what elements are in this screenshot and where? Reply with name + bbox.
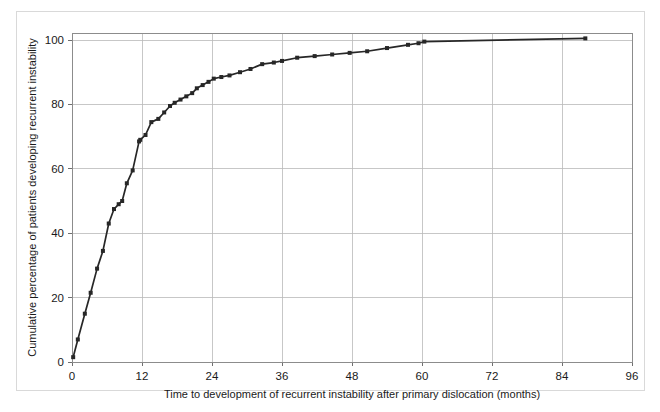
data-point-marker bbox=[406, 43, 410, 47]
x-tick-label-0: 0 bbox=[69, 370, 75, 382]
data-point-marker bbox=[260, 62, 264, 66]
data-series-group bbox=[71, 36, 587, 359]
data-point-marker bbox=[190, 91, 194, 95]
x-tick-label-12: 12 bbox=[136, 370, 149, 382]
data-point-marker bbox=[238, 70, 242, 74]
data-point-marker bbox=[162, 110, 166, 114]
data-point-marker bbox=[131, 168, 135, 172]
y-tick-label-0: 0 bbox=[58, 356, 64, 368]
data-point-marker bbox=[83, 312, 87, 316]
x-tick-label-36: 36 bbox=[276, 370, 289, 382]
data-point-marker bbox=[76, 337, 80, 341]
x-tick-label-60: 60 bbox=[416, 370, 429, 382]
series-line-0 bbox=[73, 38, 585, 357]
y-axis-tick-labels: 020406080100 bbox=[45, 34, 64, 368]
data-point-marker bbox=[120, 199, 124, 203]
data-point-marker bbox=[138, 138, 142, 142]
figure-root: 01224364860728496 020406080100 Time to d… bbox=[0, 0, 660, 412]
data-point-marker bbox=[89, 291, 93, 295]
data-point-marker bbox=[348, 51, 352, 55]
data-point-marker bbox=[212, 77, 216, 81]
y-tick-label-20: 20 bbox=[51, 292, 64, 304]
data-point-marker bbox=[117, 202, 121, 206]
data-point-marker bbox=[313, 54, 317, 58]
gridlines-group bbox=[72, 33, 632, 362]
y-tick-label-60: 60 bbox=[51, 163, 64, 175]
data-point-marker bbox=[295, 56, 299, 60]
data-point-marker bbox=[168, 104, 172, 108]
data-point-marker bbox=[195, 86, 199, 90]
data-point-marker bbox=[201, 83, 205, 87]
y-tick-label-100: 100 bbox=[45, 34, 64, 46]
data-point-marker bbox=[272, 61, 276, 65]
x-tick-label-48: 48 bbox=[346, 370, 359, 382]
tickmarks-group bbox=[68, 40, 632, 366]
line-chart: 01224364860728496 020406080100 Time to d… bbox=[0, 0, 660, 412]
data-point-marker bbox=[385, 46, 389, 50]
data-point-marker bbox=[71, 355, 75, 359]
data-point-marker bbox=[422, 40, 426, 44]
x-tick-label-72: 72 bbox=[486, 370, 499, 382]
data-point-marker bbox=[207, 80, 211, 84]
data-point-marker bbox=[95, 267, 99, 271]
data-point-marker bbox=[156, 117, 160, 121]
data-point-marker bbox=[112, 207, 116, 211]
y-tick-label-80: 80 bbox=[51, 98, 64, 110]
data-point-marker bbox=[280, 59, 284, 63]
x-tick-label-84: 84 bbox=[556, 370, 569, 382]
data-point-marker bbox=[107, 222, 111, 226]
data-point-marker bbox=[417, 41, 421, 45]
data-point-marker bbox=[101, 249, 105, 253]
data-point-marker bbox=[330, 52, 334, 56]
data-point-marker bbox=[219, 75, 223, 79]
y-axis-title: Cumulative percentage of patients develo… bbox=[26, 38, 38, 357]
data-point-marker bbox=[583, 36, 587, 40]
x-tick-label-96: 96 bbox=[626, 370, 639, 382]
y-tick-label-40: 40 bbox=[51, 227, 64, 239]
data-point-marker bbox=[179, 98, 183, 102]
data-point-marker bbox=[228, 73, 232, 77]
data-point-marker bbox=[184, 94, 188, 98]
data-point-marker bbox=[365, 49, 369, 53]
x-axis-title: Time to development of recurrent instabi… bbox=[164, 388, 540, 400]
data-point-marker bbox=[173, 101, 177, 105]
data-point-marker bbox=[125, 181, 129, 185]
data-point-marker bbox=[249, 67, 253, 71]
data-point-marker bbox=[144, 133, 148, 137]
x-tick-label-24: 24 bbox=[206, 370, 219, 382]
x-axis-tick-labels: 01224364860728496 bbox=[69, 370, 639, 382]
data-point-marker bbox=[149, 120, 153, 124]
